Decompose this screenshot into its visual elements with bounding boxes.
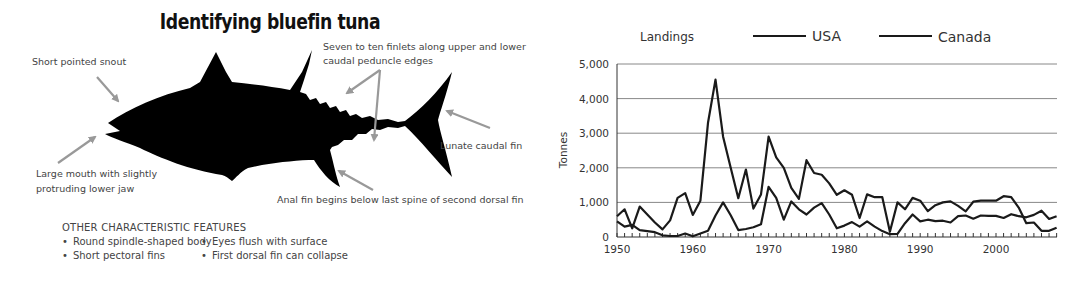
label-mouth-2: protruding lower jaw (36, 182, 134, 196)
caudal-arrow (447, 111, 490, 128)
label-finlets-1: Seven to ten finlets along upper and low… (323, 40, 526, 54)
feature-item: Eyes flush with surface (201, 236, 327, 247)
label-anal: Anal fin begins below last spine of seco… (277, 193, 524, 207)
landings-chart: Landings USA Canada Tonnes 01,0002,0003,… (540, 0, 1085, 285)
anal-fin-arrow (339, 171, 373, 190)
series-lines (617, 80, 1057, 237)
x-tick-label: 1970 (755, 243, 782, 255)
x-tick-label: 1990 (907, 243, 934, 255)
label-mouth-1: Large mouth with slightly (36, 167, 157, 181)
x-tick-label: 2000 (983, 243, 1010, 255)
snout-arrow (97, 77, 118, 101)
y-tick-label: 0 (602, 231, 609, 243)
legend-label-canada: Canada (938, 29, 991, 45)
x-tick-label: 1950 (604, 243, 631, 255)
chart-title: Landings (640, 30, 694, 44)
label-snout: Short pointed snout (32, 55, 126, 69)
y-tick-label: 1,000 (579, 196, 609, 208)
features-heading: OTHER CHARACTERISTIC FEATURES (62, 222, 246, 233)
y-tick-label: 3,000 (579, 127, 609, 139)
x-tick-label: 1960 (679, 243, 706, 255)
y-axis-label: Tonnes (557, 132, 569, 169)
y-tick-label: 5,000 (579, 58, 609, 70)
gridlines (617, 64, 1057, 237)
feature-item: First dorsal fin can collapse (201, 250, 348, 261)
label-finlets-2: caudal peduncle edges (323, 54, 433, 68)
series-line-usa (617, 80, 1057, 232)
tuna-silhouette (105, 50, 452, 187)
y-tick-label: 2,000 (579, 162, 609, 174)
line-chart: Landings USA Canada Tonnes 01,0002,0003,… (540, 0, 1085, 285)
tuna-diagram: Identifying bluefin tuna Short pointed s… (0, 0, 540, 285)
y-tick-label: 4,000 (579, 93, 609, 105)
feature-item: Round spindle-shaped body (62, 236, 212, 247)
feature-item: Short pectoral fins (62, 250, 165, 261)
mouth-arrow (58, 137, 95, 163)
label-caudal: Lunate caudal fin (440, 139, 522, 153)
finlets-arrow-upper (347, 70, 380, 93)
legend-label-usa: USA (812, 28, 841, 44)
y-axis-ticks: 01,0002,0003,0004,0005,000 (579, 58, 609, 243)
x-tick-label: 1980 (831, 243, 858, 255)
